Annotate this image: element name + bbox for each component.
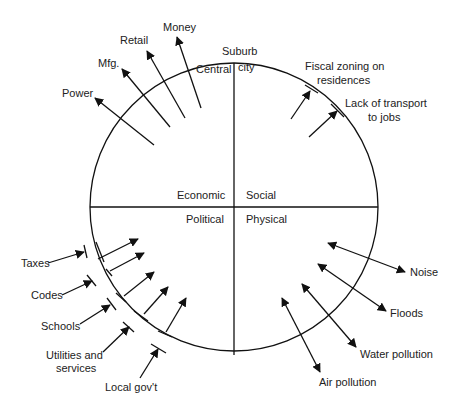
label-suburb: Suburb <box>222 45 257 57</box>
label-taxes: Taxes <box>21 257 50 269</box>
arrow-lack-transport <box>309 111 337 137</box>
label-noise: Noise <box>410 266 438 278</box>
arrow-noise <box>328 243 405 272</box>
arrow-local-govt <box>140 349 158 378</box>
arrow-air-pollution <box>282 298 320 372</box>
label-retail: Retail <box>120 34 148 46</box>
label-power: Power <box>62 87 94 99</box>
label-utilities-2: services <box>56 362 97 374</box>
quadrant-political: Political <box>186 213 224 225</box>
quadrant-social: Social <box>246 189 276 201</box>
label-local-govt: Local gov't <box>105 381 157 393</box>
label-codes: Codes <box>31 289 63 301</box>
label-mfg: Mfg. <box>98 57 119 69</box>
label-utilities-1: Utilities and <box>46 349 103 361</box>
label-floods: Floods <box>390 307 424 319</box>
arrow-taxes <box>48 252 84 263</box>
arrow-utilities <box>103 327 129 352</box>
label-schools: Schools <box>41 320 81 332</box>
label-lack-transport-2: to jobs <box>368 111 401 123</box>
arrow-power <box>95 98 154 145</box>
arrow-floods <box>318 264 386 311</box>
arrow-schools <box>80 305 110 324</box>
label-money: Money <box>163 21 197 33</box>
arrow-fiscal-zoning <box>291 91 310 119</box>
label-central: Central <box>196 63 231 75</box>
label-air-pollution: Air pollution <box>319 376 376 388</box>
city-suburb-diagram: Suburb Central city Economic Social Poli… <box>0 0 454 409</box>
label-fiscal-zoning-2: residences <box>317 74 371 86</box>
quadrant-physical: Physical <box>246 213 287 225</box>
label-water-pollution: Water pollution <box>360 348 433 360</box>
arrow-retail <box>147 51 185 118</box>
label-fiscal-zoning-1: Fiscal zoning on <box>305 60 385 72</box>
quadrant-economic: Economic <box>177 189 226 201</box>
arrow-codes <box>62 281 92 295</box>
label-lack-transport-1: Lack of transport <box>345 97 427 109</box>
label-city: city <box>238 61 255 73</box>
arrow-water-pollution <box>302 284 356 347</box>
